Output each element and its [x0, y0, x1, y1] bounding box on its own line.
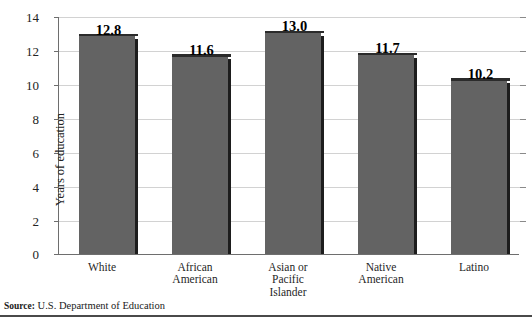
source-note-text: U.S. Department of Education	[38, 300, 165, 311]
category-label-african-american: African American	[155, 261, 235, 286]
y-tick-right-2	[520, 221, 526, 222]
y-tick-label-2: 2	[13, 215, 39, 228]
bar-native-american	[358, 55, 414, 254]
y-axis-title: Years of education	[53, 113, 68, 206]
y-tick-label-12: 12	[13, 45, 39, 58]
category-label-latino: Latino	[434, 261, 514, 273]
value-label-native-american: 11.7	[358, 41, 417, 56]
value-label-latino: 10.2	[451, 67, 510, 82]
y-tick-right-8	[520, 119, 526, 120]
y-tick-label-4: 4	[13, 181, 39, 194]
bar-latino	[451, 81, 507, 254]
y-tick-label-8: 8	[13, 113, 39, 126]
y-tick-0	[54, 254, 59, 255]
y-tick-right-12	[520, 51, 526, 52]
bar-asian-pacific-islander	[265, 33, 321, 254]
bar-chart-figure: 14 12 10 8 6 4 2 0 Years of education 12…	[0, 0, 532, 319]
category-label-white: White	[62, 261, 142, 273]
y-tick-label-6: 6	[13, 147, 39, 160]
y-tick-label-14: 14	[13, 11, 39, 24]
bar-white	[79, 36, 135, 254]
category-label-native-american: Native American	[341, 261, 421, 286]
bar-african-american	[172, 57, 228, 254]
category-label-asian-pacific-islander: Asian or Pacific Islander	[248, 261, 328, 298]
value-label-asian-pacific-islander: 13.0	[265, 19, 324, 34]
y-tick-label-10: 10	[13, 79, 39, 92]
y-tick-10	[54, 85, 59, 86]
y-tick-14	[54, 17, 59, 18]
y-tick-label-0: 0	[13, 248, 39, 261]
value-label-african-american: 11.6	[172, 43, 231, 58]
value-label-white: 12.8	[79, 23, 138, 38]
y-tick-right-14	[520, 17, 526, 18]
y-tick-2	[54, 221, 59, 222]
y-tick-right-10	[520, 85, 526, 86]
y-tick-right-4	[520, 187, 526, 188]
y-tick-right-6	[520, 153, 526, 154]
source-note: Source: U.S. Department of Education	[4, 300, 165, 311]
source-note-label: Source:	[4, 301, 35, 311]
bottom-divider	[0, 315, 532, 317]
plot-area: 14 12 10 8 6 4 2 0 Years of education 12…	[58, 17, 519, 255]
y-tick-12	[54, 51, 59, 52]
